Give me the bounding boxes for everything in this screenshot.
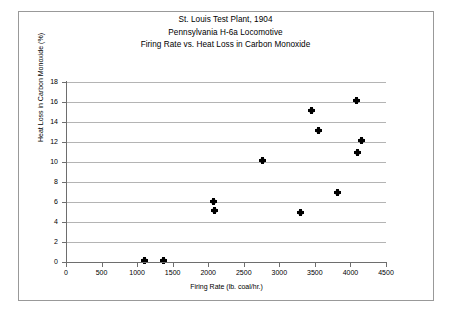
x-tick-label: 4500 [369,269,403,276]
x-tick-label: 1000 [120,269,154,276]
y-tick-mark [62,82,66,83]
gridline-y [66,102,386,103]
y-tick-label: 4 [36,218,58,225]
data-point [359,138,364,143]
plot-area [66,82,386,262]
y-tick-label: 14 [36,118,58,125]
x-tick-mark [102,263,103,267]
y-tick-mark [62,142,66,143]
x-tick-label: 2500 [227,269,261,276]
chart-title-line-2: Pennsylvania H-6a Locomotive [0,27,451,40]
y-tick-label: 12 [36,138,58,145]
y-tick-mark [62,102,66,103]
y-tick-label: 0 [36,258,58,265]
y-tick-label: 10 [36,158,58,165]
data-point [260,158,265,163]
y-tick-label: 6 [36,198,58,205]
gridline-y [66,242,386,243]
chart-title-line-1: St. Louis Test Plant, 1904 [0,14,451,27]
y-tick-mark [62,202,66,203]
x-tick-mark [173,263,174,267]
x-tick-mark [66,263,67,267]
x-tick-label: 4000 [333,269,367,276]
x-tick-label: 3500 [298,269,332,276]
gridline-y [66,162,386,163]
data-point [211,199,216,204]
x-axis-line [66,262,387,263]
y-axis-line [66,81,67,263]
data-point [316,128,321,133]
gridline-y [66,182,386,183]
data-point [355,150,360,155]
data-point [354,98,359,103]
data-point [212,208,217,213]
x-tick-mark [386,263,387,267]
y-tick-mark [62,242,66,243]
x-tick-mark [350,263,351,267]
data-point [309,108,314,113]
data-point [335,190,340,195]
x-tick-label: 0 [49,269,83,276]
gridline-y [66,122,386,123]
gridline-y [66,142,386,143]
x-tick-mark [315,263,316,267]
x-axis-title: Firing Rate (lb. coal/hr.) [66,283,387,290]
y-tick-label: 16 [36,98,58,105]
x-tick-mark [208,263,209,267]
x-tick-mark [244,263,245,267]
y-tick-mark [62,162,66,163]
data-point [298,210,303,215]
gridline-y [66,82,386,83]
y-tick-mark [62,122,66,123]
y-tick-mark [62,182,66,183]
x-tick-mark [279,263,280,267]
x-tick-label: 1500 [156,269,190,276]
y-tick-label: 18 [36,78,58,85]
x-tick-mark [137,263,138,267]
gridline-y [66,222,386,223]
x-tick-label: 3000 [262,269,296,276]
chart-page: St. Louis Test Plant, 1904 Pennsylvania … [0,0,451,316]
y-tick-mark [62,222,66,223]
chart-title-block: St. Louis Test Plant, 1904 Pennsylvania … [0,14,451,52]
chart-title-line-3: Firing Rate vs. Heat Loss in Carbon Mono… [0,39,451,52]
y-tick-label: 2 [36,238,58,245]
y-tick-label: 8 [36,178,58,185]
x-tick-label: 2000 [191,269,225,276]
y-axis-title: Heat Loss in Carbon Monoxide (%) [37,0,44,178]
gridline-y [66,202,386,203]
x-tick-label: 500 [85,269,119,276]
